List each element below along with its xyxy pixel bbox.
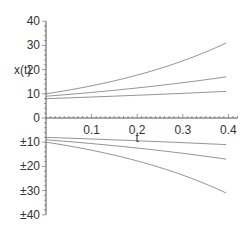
y-tick-label: 30	[27, 38, 41, 52]
x-tick-label: 0.4	[220, 123, 237, 137]
curve-line	[46, 43, 226, 94]
x-tick-label: 0.1	[83, 123, 100, 137]
curve-line	[46, 77, 226, 96]
y-tick-label: ±40	[20, 208, 40, 222]
y-tick-label: ±30	[20, 184, 40, 198]
y-axis-label: x(t)	[14, 63, 31, 77]
x-tick-label: 0.3	[174, 123, 191, 137]
curve-line	[46, 91, 226, 98]
curve-line	[46, 142, 226, 193]
y-tick-label: 40	[27, 14, 41, 28]
y-tick-label: ±20	[20, 159, 40, 173]
y-tick-label: 10	[27, 87, 41, 101]
y-tick-label: 0	[33, 111, 40, 125]
y-tick-label: ±10	[20, 135, 40, 149]
axes	[42, 21, 238, 215]
line-chart: 403020100±10±20±30±400.10.20.30.4x(t)t	[0, 0, 244, 230]
